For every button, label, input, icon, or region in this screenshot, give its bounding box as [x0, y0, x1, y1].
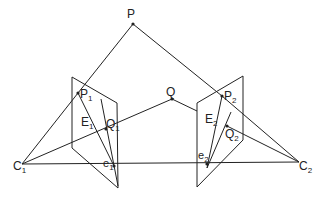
label-p2: P2: [224, 90, 236, 105]
label-p1: P1: [80, 88, 92, 103]
ray-q-q2: [172, 99, 197, 111]
label-c2: C2: [299, 160, 312, 175]
label-q: Q: [166, 86, 175, 98]
epipolar-line-left-2: [101, 99, 118, 186]
label-q1: Q1: [106, 118, 120, 133]
label-e2-epipole: e2: [198, 150, 209, 164]
ray-p-p1: [78, 24, 133, 93]
epipolar-diagram: P Q P1 E1 Q1 e1 C1 P2 E2 Q2 e2 C2: [0, 0, 325, 197]
label-e1-capital: E1: [81, 116, 93, 131]
epipolar-line-e2: [207, 96, 222, 168]
label-e2-capital: E2: [205, 113, 217, 128]
ray-c1-p1: [22, 93, 78, 164]
diagram-lines: [0, 0, 325, 197]
label-p: P: [127, 8, 135, 20]
label-q2: Q2: [225, 128, 239, 143]
label-c1: C1: [13, 160, 26, 175]
label-e1-epipole: e1: [103, 158, 114, 172]
ray-p-p2: [133, 24, 222, 96]
baseline: [22, 162, 299, 164]
